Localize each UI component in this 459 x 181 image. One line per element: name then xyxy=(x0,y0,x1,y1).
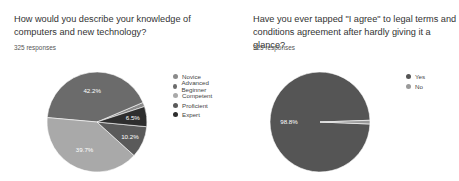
legend-swatch-icon xyxy=(406,84,411,89)
legend-label: Advanced Beginner xyxy=(181,79,230,93)
legend-label: Expert xyxy=(182,111,200,118)
legend-item-advanced-beginner: Advanced Beginner xyxy=(173,82,230,92)
pie-chart: 42.2%39.7%10.2%6.5% xyxy=(42,67,152,177)
legend-swatch-icon xyxy=(173,112,178,117)
pie-chart: 98.8% xyxy=(265,67,375,177)
question-title: How would you describe your knowledge of… xyxy=(14,13,236,39)
slice-label: 98.8% xyxy=(280,118,298,125)
legend-swatch-icon xyxy=(173,84,177,89)
response-count: 325 responses xyxy=(253,44,295,51)
response-count: 325 responses xyxy=(14,44,56,51)
chart-card-computer-knowledge: How would you describe your knowledge of… xyxy=(0,0,230,181)
legend-label: Yes xyxy=(415,73,425,80)
slice-label: 39.7% xyxy=(76,146,94,153)
legend-item-proficient: Proficient xyxy=(173,101,230,111)
legend-swatch-icon xyxy=(173,103,178,108)
legend-item-yes: Yes xyxy=(406,72,425,82)
chart-card-terms-agreement: Have you ever tapped "I agree" to legal … xyxy=(230,0,459,181)
legend-swatch-icon xyxy=(173,93,178,98)
slice-label: 42.2% xyxy=(83,87,101,94)
legend-item-expert: Expert xyxy=(173,110,230,120)
chart-legend: NoviceAdvanced BeginnerCompetentProficie… xyxy=(173,72,230,120)
legend-label: No xyxy=(415,83,423,90)
slice-label: 10.2% xyxy=(121,133,139,140)
legend-item-no: No xyxy=(406,82,425,92)
legend-swatch-icon xyxy=(173,74,178,79)
chart-legend: YesNo xyxy=(406,72,425,91)
legend-label: Competent xyxy=(182,92,212,99)
slice-label: 6.5% xyxy=(126,114,141,121)
legend-swatch-icon xyxy=(406,74,411,79)
legend-label: Proficient xyxy=(182,102,208,109)
